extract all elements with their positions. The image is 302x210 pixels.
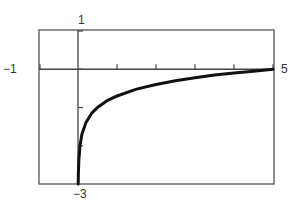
x-max-label: 5 bbox=[281, 63, 288, 75]
viewing-window-frame bbox=[39, 30, 274, 184]
x-min-label: −1 bbox=[3, 63, 17, 75]
tick-marks bbox=[40, 31, 273, 146]
log-curve bbox=[78, 69, 273, 184]
y-min-label: −3 bbox=[73, 188, 87, 200]
y-max-label: 1 bbox=[78, 14, 85, 26]
axes bbox=[39, 30, 274, 184]
chart-plot-area bbox=[0, 0, 302, 210]
